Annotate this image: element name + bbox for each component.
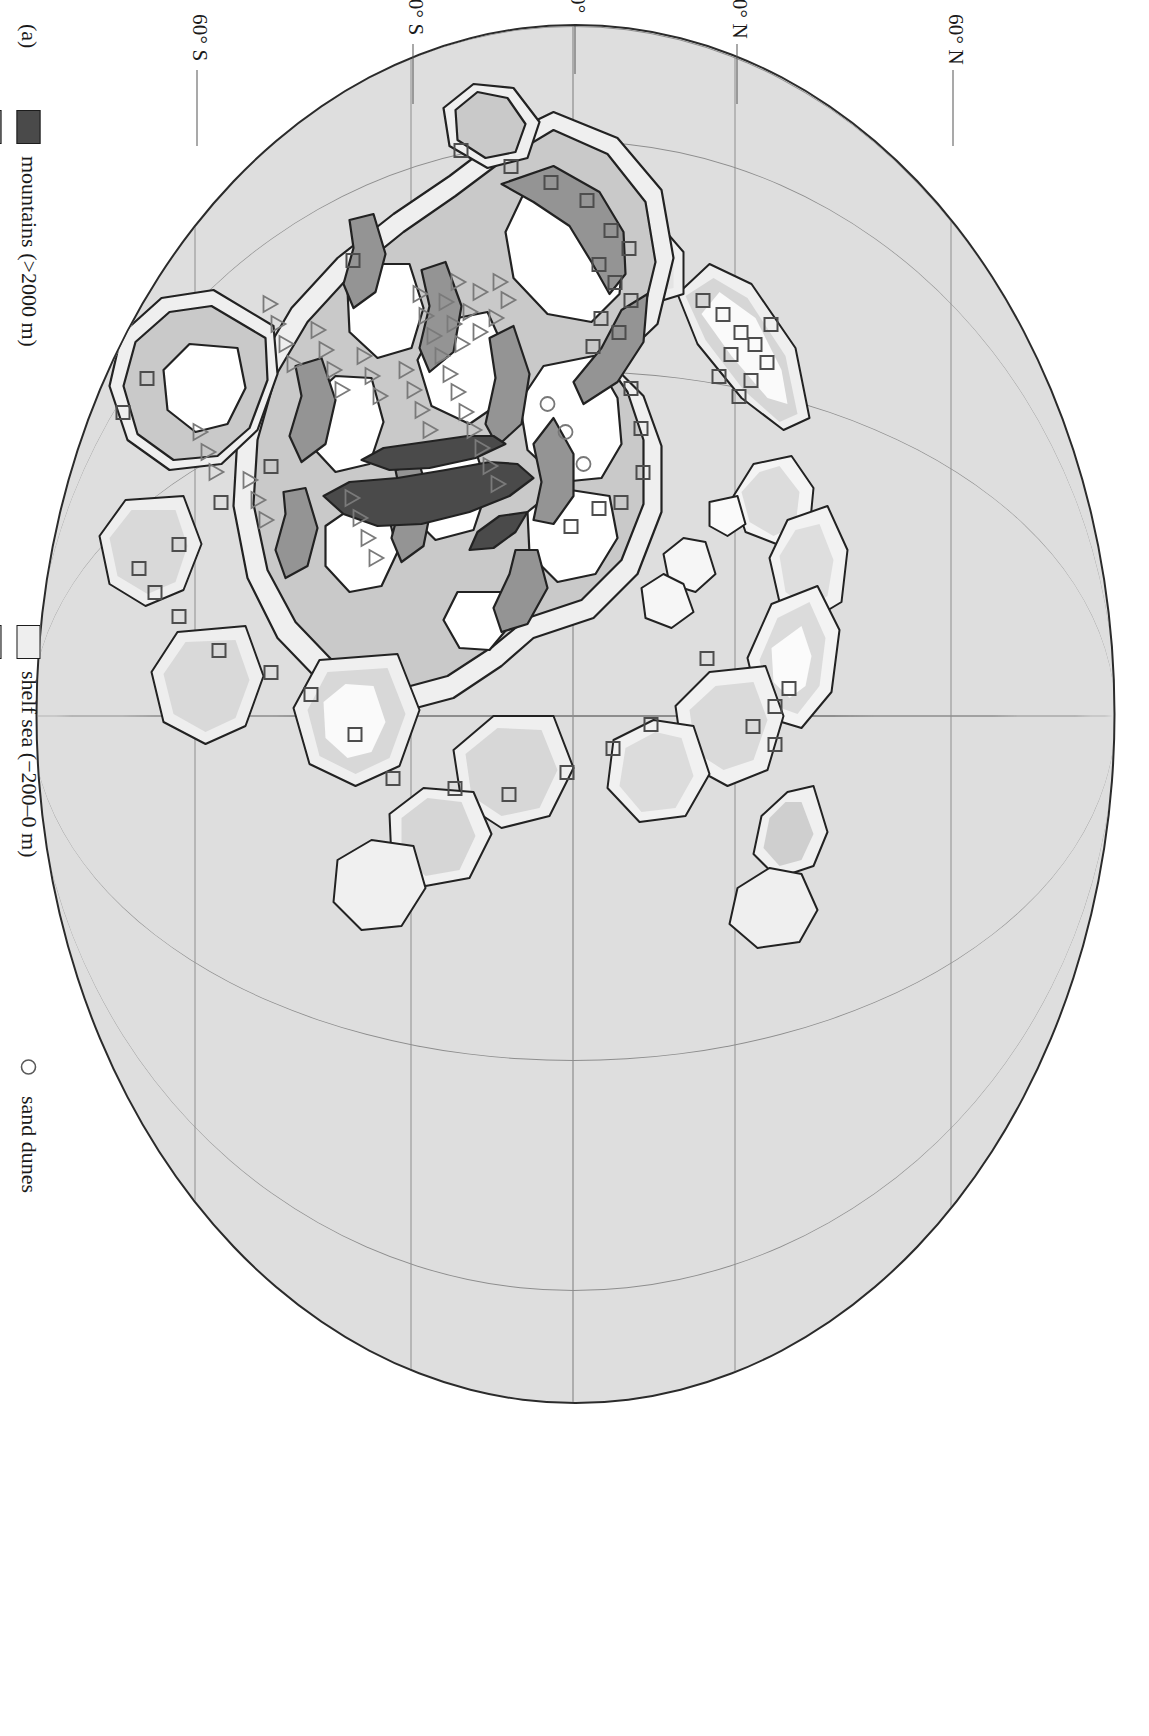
legend-item: mountains (1000–2000 m): [0, 110, 2, 389]
legend-item: mountains (>2000 m): [15, 110, 41, 389]
lat-tick-60n: [952, 70, 953, 146]
swatch-mountains-high: [16, 110, 40, 144]
lat-label-60n: 60° N: [942, 14, 967, 65]
legend-symbols: sand dunes evaporites coals: [0, 1050, 41, 1193]
legend-ocean: shelf sea (−200–0 m) deep ocean (<−200 m…: [0, 625, 41, 870]
paleogeography-vector: [35, 26, 1113, 1404]
swatch-mountains: [0, 110, 1, 144]
swatch-deep-ocean: [0, 625, 1, 659]
swatch-shelf-sea: [16, 625, 40, 659]
lat-label-30n: 30° N: [726, 0, 751, 39]
map-panel: 60° N 30° N 0° 30° S 60° S: [35, 24, 1115, 1404]
lat-label-30s: 30° S: [402, 0, 427, 35]
legend-item: shelf sea (−200–0 m): [15, 625, 41, 870]
lat-label-60s: 60° S: [186, 14, 211, 61]
lat-tick-30n: [736, 44, 737, 104]
lat-tick-eq: [574, 26, 575, 74]
world-globe: [35, 24, 1115, 1404]
legend-item: sand dunes: [15, 1050, 41, 1193]
lat-tick-30s: [412, 44, 413, 104]
legend-label: mountains (>2000 m): [17, 156, 39, 347]
legend-label: sand dunes: [17, 1096, 39, 1193]
circle-icon: [18, 1050, 38, 1084]
legend-item: evaporites: [0, 1050, 2, 1193]
figure-root: 60° N 30° N 0° 30° S 60° S (a) mountains…: [0, 0, 1149, 1736]
lat-label-equator: 0°: [564, 0, 589, 13]
legend-elevation: mountains (>2000 m) mountains (1000–2000…: [0, 110, 41, 389]
legend-label: shelf sea (−200–0 m): [17, 671, 39, 858]
panel-label: (a): [15, 24, 41, 48]
lat-tick-60s: [196, 70, 197, 146]
legend-item: deep ocean (<−200 m): [0, 625, 2, 870]
